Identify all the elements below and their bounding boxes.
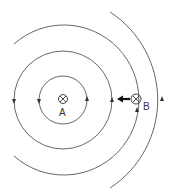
- field-line-4: [110, 12, 158, 188]
- wire-b-current-into-page-icon: [131, 94, 141, 104]
- arrow-up-icon: [110, 97, 114, 102]
- field-line-2: [14, 51, 112, 149]
- label-a: A: [59, 107, 66, 118]
- label-b: B: [143, 101, 150, 112]
- arrow-down-icon: [37, 99, 41, 104]
- wire-a-current-into-page-icon: [59, 95, 68, 104]
- arrow-down-icon: [12, 99, 16, 104]
- arrow-up-icon: [85, 96, 89, 101]
- force-arrow-icon: [117, 96, 130, 103]
- magnetic-field-diagram: A B: [0, 0, 177, 196]
- arrow-up-icon: [160, 96, 164, 101]
